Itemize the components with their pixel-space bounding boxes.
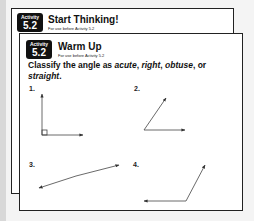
card-subtitle: For use before Activity 5.2 [48, 26, 94, 31]
angle-3-figure [39, 165, 119, 188]
page-edge-strip [0, 0, 6, 221]
activity-badge: Activity 5.2 [17, 13, 43, 32]
card-title: Start Thinking! [48, 14, 119, 25]
badge-number: 5.2 [17, 20, 43, 31]
angle-figures [20, 34, 244, 212]
angle-2-figure [144, 98, 185, 130]
badge-label: Activity [17, 13, 43, 20]
warm-up-card: Activity 5.2 Warm Up For use before Acti… [19, 33, 243, 211]
angle-4-figure [144, 165, 205, 201]
angle-1-figure [42, 94, 83, 135]
